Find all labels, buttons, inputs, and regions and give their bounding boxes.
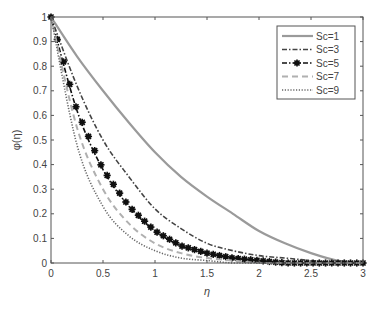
x-tick-label: 2.5 — [304, 268, 318, 279]
legend-label: Sc=9 — [316, 85, 340, 96]
x-tick-label: 3 — [360, 268, 366, 279]
x-tick-label: 0 — [48, 268, 54, 279]
legend: Sc=1Sc=3Sc=5Sc=7Sc=9 — [277, 26, 355, 99]
y-tick-label: 0.4 — [33, 159, 47, 170]
y-tick-label: 1 — [41, 12, 47, 23]
y-tick-label: 0.9 — [33, 36, 47, 47]
y-tick-label: 0.2 — [33, 208, 47, 219]
y-tick-label: 0.8 — [33, 61, 47, 72]
legend-label: Sc=7 — [316, 71, 340, 82]
y-tick-label: 0.1 — [33, 233, 47, 244]
legend-label: Sc=1 — [316, 31, 340, 42]
y-tick-label: 0 — [41, 258, 47, 269]
y-axis-label: φ(η) — [10, 130, 22, 151]
y-tick-label: 0.3 — [33, 184, 47, 195]
legend-label: Sc=5 — [316, 58, 340, 69]
legend-label: Sc=3 — [316, 44, 340, 55]
x-axis-label: η — [204, 285, 210, 297]
chart: 00.511.522.5300.10.20.30.40.50.60.70.80.… — [0, 0, 383, 309]
y-tick-label: 0.6 — [33, 110, 47, 121]
x-tick-label: 1 — [152, 268, 158, 279]
x-tick-label: 2 — [256, 268, 262, 279]
x-tick-label: 1.5 — [200, 268, 214, 279]
x-tick-label: 0.5 — [96, 268, 110, 279]
y-tick-label: 0.7 — [33, 85, 47, 96]
y-tick-label: 0.5 — [33, 135, 47, 146]
